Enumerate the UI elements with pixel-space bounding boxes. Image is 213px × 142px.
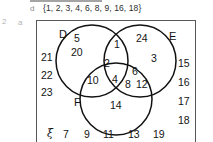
outside-right-item: 17 — [178, 96, 190, 107]
outside-bottom-item: 19 — [153, 129, 165, 140]
outside-bottom-item: 13 — [128, 129, 140, 140]
region-f-only-item: 14 — [110, 100, 122, 111]
question-number: 2 — [2, 17, 6, 26]
region-e-and-f-item: 12 — [136, 79, 148, 90]
answer-part-label: d — [30, 4, 35, 13]
region-d-only-item: 5 — [74, 33, 80, 44]
outside-right-item: 18 — [178, 115, 190, 126]
outside-left-item: 22 — [41, 70, 53, 81]
outside-left-item: 23 — [41, 87, 53, 98]
universal-set-symbol: ξ — [47, 128, 53, 139]
outside-bottom-item: 9 — [84, 129, 90, 140]
region-e-and-f-item: 8 — [125, 79, 131, 90]
region-d-and-e-item: 1 — [114, 39, 120, 50]
set-label-e: E — [169, 31, 176, 42]
outside-right-item: 16 — [178, 77, 190, 88]
question-part: a — [18, 18, 22, 27]
outside-bottom-item: 7 — [63, 129, 69, 140]
outside-left-item: 21 — [41, 52, 53, 63]
region-e-only-item: 3 — [151, 53, 157, 64]
set-label-f: F — [74, 97, 81, 108]
region-d-only-item: 20 — [71, 47, 83, 58]
region-e-and-f-item: 6 — [132, 66, 138, 77]
region-d-and-f-item: 10 — [87, 75, 99, 86]
answer-set-notation: {1, 2, 3, 4, 6, 8, 9, 16, 18} — [43, 3, 141, 13]
outside-bottom-item: 11 — [103, 129, 114, 140]
answer-underline — [30, 0, 102, 2]
set-label-d: D — [59, 29, 67, 40]
outside-right-item: 15 — [178, 58, 190, 69]
venn-diagram-worksheet: d {1, 2, 3, 4, 6, 8, 9, 16, 18} 2 a D E … — [0, 0, 213, 142]
region-e-only-item: 24 — [136, 33, 148, 44]
region-d-e-f-item: 4 — [112, 74, 118, 85]
region-d-e-f-item: 2 — [104, 58, 110, 69]
